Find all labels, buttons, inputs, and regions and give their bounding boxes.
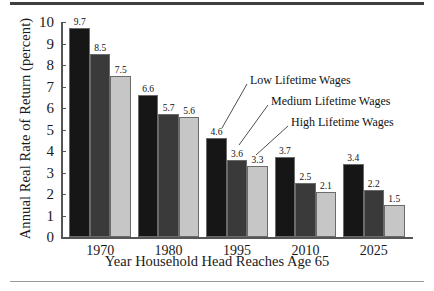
top-divider-rule: [10, 2, 424, 5]
bar-2010-low-lifetime-wages: 3.7: [275, 157, 296, 237]
bar-1995-medium-lifetime-wages: 3.6: [227, 160, 248, 237]
y-tick-mark: [61, 216, 66, 217]
y-tick-mark: [61, 65, 66, 66]
bar-value-label: 7.5: [115, 65, 127, 76]
bar-value-label: 6.6: [142, 84, 154, 95]
y-tick-mark: [61, 87, 66, 88]
annotation-high-lifetime-wages: High Lifetime Wages: [291, 115, 394, 129]
y-tick-label: 7: [47, 77, 55, 97]
bar-value-label: 4.6: [211, 127, 223, 138]
bar-1970-low-lifetime-wages: 9.7: [69, 28, 90, 237]
bar-group-1995: 4.63.63.3: [206, 22, 268, 237]
y-tick-label: 6: [47, 98, 55, 118]
bar-value-label: 3.7: [279, 146, 291, 157]
y-tick-label: 4: [47, 141, 55, 161]
y-tick-mark: [61, 173, 66, 174]
bar-value-label: 5.6: [183, 106, 195, 117]
y-tick-label: 3: [47, 163, 55, 183]
bar-value-label: 8.5: [94, 43, 106, 54]
y-tick-label: 8: [47, 55, 55, 75]
plot-area: 012345678910 9.78.57.56.65.75.64.63.63.3…: [61, 22, 413, 237]
x-axis-line: [61, 237, 413, 239]
bar-value-label: 9.7: [74, 17, 86, 28]
bar-value-label: 3.6: [231, 149, 243, 160]
bar-2010-high-lifetime-wages: 2.1: [316, 192, 337, 237]
bar-value-label: 5.7: [163, 103, 175, 114]
bar-2025-low-lifetime-wages: 3.4: [343, 164, 364, 237]
y-tick-label: 10: [39, 12, 54, 32]
bar-1970-medium-lifetime-wages: 8.5: [90, 54, 111, 237]
annotation-medium-lifetime-wages: Medium Lifetime Wages: [271, 94, 390, 108]
bar-1995-high-lifetime-wages: 3.3: [247, 166, 268, 237]
bar-value-label: 2.5: [299, 172, 311, 183]
bar-value-label: 2.2: [368, 179, 380, 190]
bar-1995-low-lifetime-wages: 4.6: [206, 138, 227, 237]
figure-container: Annual Real Rate of Return (percent) 012…: [0, 0, 434, 291]
y-tick-label: 5: [47, 120, 55, 140]
bar-2025-medium-lifetime-wages: 2.2: [364, 190, 385, 237]
bar-1980-low-lifetime-wages: 6.6: [138, 95, 159, 237]
bar-group-1970: 9.78.57.5: [69, 22, 131, 237]
bar-value-label: 3.4: [347, 153, 359, 164]
y-tick-mark: [61, 151, 66, 152]
bottom-divider-rule: [10, 281, 424, 282]
bar-1970-high-lifetime-wages: 7.5: [110, 76, 131, 237]
y-axis-title: Annual Real Rate of Return (percent): [17, 11, 34, 246]
y-tick-mark: [61, 194, 66, 195]
y-tick-mark: [61, 130, 66, 131]
bar-group-1980: 6.65.75.6: [138, 22, 200, 237]
y-tick-label: 9: [47, 34, 55, 54]
bar-group-2025: 3.42.21.5: [343, 22, 405, 237]
y-tick-mark: [61, 44, 66, 45]
y-tick-label: 2: [47, 184, 55, 204]
bar-group-2010: 3.72.52.1: [275, 22, 337, 237]
bar-1980-medium-lifetime-wages: 5.7: [158, 114, 179, 237]
y-tick-mark: [61, 108, 66, 109]
y-tick-label: 1: [47, 206, 55, 226]
bar-value-label: 2.1: [320, 181, 332, 192]
bar-value-label: 1.5: [388, 194, 400, 205]
y-tick-mark: [61, 22, 66, 23]
bar-value-label: 3.3: [252, 155, 264, 166]
bar-2010-medium-lifetime-wages: 2.5: [295, 183, 316, 237]
y-tick-label: 0: [47, 227, 55, 247]
bar-1980-high-lifetime-wages: 5.6: [179, 117, 200, 237]
y-tick-mark: [61, 237, 66, 238]
bar-2025-high-lifetime-wages: 1.5: [384, 205, 405, 237]
annotation-low-lifetime-wages: Low Lifetime Wages: [250, 73, 351, 87]
x-axis-title: Year Household Head Reaches Age 65: [0, 253, 434, 270]
